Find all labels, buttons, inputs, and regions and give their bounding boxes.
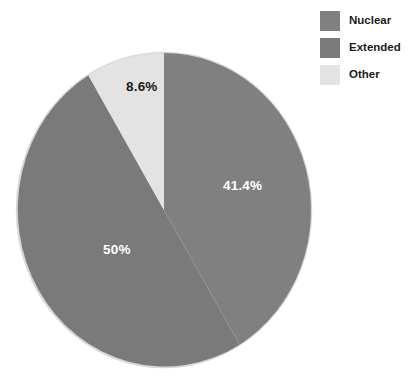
legend-item-nuclear[interactable]: Nuclear <box>320 10 409 31</box>
legend-swatch-icon-nuclear <box>320 11 340 31</box>
chart-legend: Nuclear Extended Other <box>320 10 409 91</box>
legend-label-other: Other <box>349 69 380 81</box>
legend-swatch-icon-extended <box>320 38 340 58</box>
legend-label-extended: Extended <box>349 42 401 54</box>
pie-slice-value-extended: 50% <box>103 243 131 257</box>
legend-item-extended[interactable]: Extended <box>320 37 409 58</box>
pie-slice-value-nuclear: 41.4% <box>223 179 262 193</box>
pie-chart: 41.4% 50% 8.6% Nuclear Extended Other <box>0 0 409 392</box>
legend-swatch-icon-other <box>320 65 340 85</box>
legend-label-nuclear: Nuclear <box>349 15 391 27</box>
pie-slice-value-other: 8.6% <box>126 80 158 94</box>
legend-item-other[interactable]: Other <box>320 64 409 85</box>
